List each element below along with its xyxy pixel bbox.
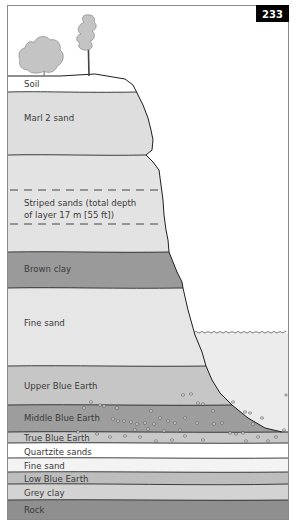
- label-upper-blue-earth: Upper Blue Earth: [24, 381, 98, 391]
- label-soil: Soil: [24, 79, 40, 89]
- label-fine-sand-upper: Fine sand: [24, 318, 65, 328]
- label-striped-sands-line2: of layer 17 m [55 ft]): [24, 210, 114, 220]
- page-number: 233: [262, 9, 283, 20]
- label-grey-clay: Grey clay: [24, 488, 65, 498]
- label-striped-sands-line1: Striped sands (total depth: [24, 198, 136, 208]
- label-low-blue-earth: Low Blue Earth: [24, 474, 88, 484]
- label-marl-sand: Marl 2 sand: [24, 113, 74, 123]
- label-rock: Rock: [24, 505, 45, 515]
- label-middle-blue-earth: Middle Blue Earth: [24, 413, 100, 423]
- layer-rock: [8, 500, 288, 519]
- label-brown-clay: Brown clay: [24, 264, 71, 274]
- label-quartzite-sands: Quartzite sands: [24, 447, 92, 457]
- label-fine-sand-lower: Fine sand: [24, 461, 65, 471]
- label-true-blue-earth: True Blue Earth: [23, 433, 90, 443]
- layer-marl-sand: [8, 92, 153, 155]
- cliff-stratigraphy-diagram: 233 Soil Marl 2 sand Striped sands (tota…: [0, 0, 301, 527]
